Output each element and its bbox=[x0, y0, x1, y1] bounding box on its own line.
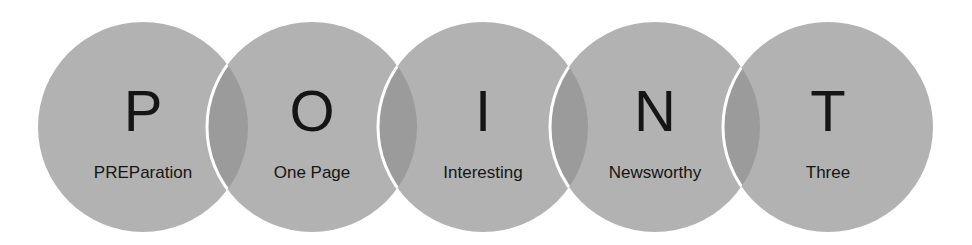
letter-t: T bbox=[723, 82, 933, 140]
word-three: Three bbox=[723, 163, 933, 183]
